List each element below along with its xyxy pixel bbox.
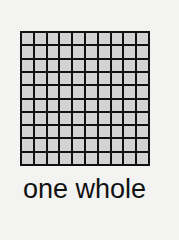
grid-cell [99,153,110,164]
grid-cell [48,73,59,84]
grid-cell [124,86,135,97]
grid-cell [35,86,46,97]
grid-cell [22,46,33,57]
grid-cell [35,33,46,44]
grid-cell [73,113,84,124]
grid-cell [137,139,148,150]
grid-cell [48,86,59,97]
grid-cell [137,113,148,124]
grid-cell [48,139,59,150]
grid-cell [35,139,46,150]
grid-cell [35,100,46,111]
grid-cell [60,139,71,150]
grid-cell [22,33,33,44]
grid-cell [48,100,59,111]
grid-cell [86,73,97,84]
grid-cell [22,100,33,111]
grid-cell [86,100,97,111]
grid-cell [86,46,97,57]
grid-cell [112,153,123,164]
grid-cell [86,113,97,124]
grid-cell [99,46,110,57]
grid-cell [86,86,97,97]
grid-cell [60,46,71,57]
grid-cell [73,46,84,57]
grid-cell [112,60,123,71]
grid-cell [60,153,71,164]
grid-cell [48,153,59,164]
grid-cell [73,153,84,164]
grid-cell [73,86,84,97]
grid-cell [124,46,135,57]
grid-cell [137,86,148,97]
grid-cell [99,100,110,111]
grid-cell [99,33,110,44]
grid-cell [60,126,71,137]
grid-cell [112,33,123,44]
grid-cell [124,33,135,44]
grid-cell [60,33,71,44]
grid-cell [124,126,135,137]
grid-cell [22,113,33,124]
grid-cell [22,126,33,137]
grid-cell [86,153,97,164]
grid-cell [60,113,71,124]
grid-cell [73,73,84,84]
grid-cell [48,126,59,137]
grid-cell [22,139,33,150]
grid-cell [124,73,135,84]
grid-cell [22,60,33,71]
grid-cell [137,46,148,57]
grid-cell [124,60,135,71]
grid-cell [112,100,123,111]
grid-cell [35,126,46,137]
grid-cell [112,46,123,57]
grid-cell [73,33,84,44]
grid-cell [112,126,123,137]
grid-cell [86,126,97,137]
grid-cell [60,100,71,111]
grid-cell [86,139,97,150]
grid-cell [112,73,123,84]
grid-cell [35,73,46,84]
grid-cell [35,46,46,57]
grid-cell [99,113,110,124]
grid-cell [48,33,59,44]
grid-cell [73,60,84,71]
grid-cell [112,113,123,124]
grid-cell [22,86,33,97]
grid-cell [86,33,97,44]
grid-cell [99,86,110,97]
grid-cell [35,153,46,164]
grid-cell [73,100,84,111]
grid-cell [112,139,123,150]
grid-cell [86,60,97,71]
grid-cell [35,113,46,124]
grid-cell [48,113,59,124]
grid-cell [60,60,71,71]
grid-cell [124,139,135,150]
grid-cell [137,100,148,111]
grid-cell [124,113,135,124]
grid-cell [48,46,59,57]
grid-cell [137,153,148,164]
grid-cell [99,60,110,71]
grid-cell [137,126,148,137]
grid-cell [35,60,46,71]
caption-label: one whole [0,174,169,204]
grid-cell [137,73,148,84]
grid-cell [60,86,71,97]
grid-cell [22,73,33,84]
grid-cell [99,73,110,84]
grid-cell [137,33,148,44]
grid-cell [73,139,84,150]
grid-cell [124,100,135,111]
grid-cell [137,60,148,71]
grid-cell [112,86,123,97]
hundred-grid [20,31,150,166]
grid-cell [60,73,71,84]
grid-cell [124,153,135,164]
grid-cell [73,126,84,137]
grid-cell [99,126,110,137]
grid-cell [48,60,59,71]
